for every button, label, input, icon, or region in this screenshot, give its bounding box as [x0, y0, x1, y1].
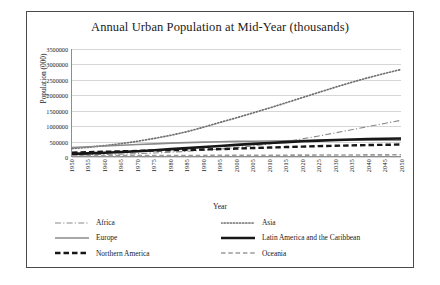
legend-item[interactable]: Oceania — [221, 249, 387, 258]
legend-swatch — [55, 219, 89, 227]
x-tick-label: 2000 — [233, 159, 240, 172]
chart-title: Annual Urban Population at Mid-Year (tho… — [27, 20, 413, 35]
x-axis-tick-labels: 1950195519601965197019751980198519901995… — [71, 159, 401, 201]
x-tick-label: 1965 — [117, 159, 124, 172]
x-tick-label: 1970 — [134, 159, 141, 172]
x-tick-label: 2020 — [299, 159, 306, 172]
x-tick-label: 2005 — [249, 159, 256, 172]
x-tick-label: 1975 — [150, 159, 157, 172]
y-tick-label: 3500000 — [46, 46, 68, 53]
x-tick-label: 1995 — [216, 159, 223, 172]
chart-legend: AfricaAsiaEuropeLatin America and the Ca… — [55, 215, 387, 261]
y-axis-tick-labels: 3500000300000025000002000000150000010000… — [27, 12, 71, 162]
x-tick-label: 2015 — [282, 159, 289, 172]
legend-item[interactable]: Africa — [55, 218, 221, 227]
legend-label: Africa — [96, 218, 115, 227]
series-line — [72, 120, 401, 155]
x-tick-label: 1980 — [167, 159, 174, 172]
x-tick-label: 1950 — [68, 159, 75, 172]
y-tick-label: 2500000 — [46, 76, 68, 83]
x-tick-label: 2050 — [398, 159, 405, 172]
x-tick-label: 2030 — [332, 159, 339, 172]
legend-item[interactable]: Northern America — [55, 249, 221, 258]
legend-label: Asia — [262, 218, 276, 227]
gridline — [72, 157, 401, 158]
legend-item[interactable]: Asia — [221, 218, 387, 227]
x-tick-label: 1985 — [183, 159, 190, 172]
chart-figure: Annual Urban Population at Mid-Year (tho… — [26, 11, 414, 268]
series-line — [72, 155, 401, 156]
x-tick-label: 2035 — [348, 159, 355, 172]
y-tick-label: 1500000 — [46, 107, 68, 114]
plot-area — [71, 49, 401, 157]
x-tick-label: 2025 — [315, 159, 322, 172]
legend-swatch — [55, 249, 89, 257]
legend-item[interactable]: Latin America and the Caribbean — [221, 233, 387, 242]
legend-label: Oceania — [262, 249, 286, 258]
x-tick-label: 2010 — [266, 159, 273, 172]
y-tick-label: 2000000 — [46, 92, 68, 99]
legend-swatch — [55, 234, 89, 242]
legend-label: Europe — [96, 233, 117, 242]
y-tick-label: 1000000 — [46, 123, 68, 130]
x-tick-label: 2040 — [365, 159, 372, 172]
x-tick-label: 1960 — [101, 159, 108, 172]
x-tick-label: 2045 — [381, 159, 388, 172]
legend-item[interactable]: Europe — [55, 233, 221, 242]
y-tick-label: 500000 — [49, 138, 68, 145]
y-tick-label: 3000000 — [46, 61, 68, 68]
x-tick-label: 1990 — [200, 159, 207, 172]
legend-swatch — [221, 234, 255, 242]
legend-swatch — [221, 219, 255, 227]
legend-label: Latin America and the Caribbean — [262, 233, 360, 242]
legend-swatch — [221, 249, 255, 257]
series-lines — [72, 49, 401, 156]
x-tick-label: 1955 — [84, 159, 91, 172]
series-line — [72, 69, 401, 148]
x-axis-title: Year — [27, 202, 413, 211]
legend-label: Northern America — [96, 249, 150, 258]
